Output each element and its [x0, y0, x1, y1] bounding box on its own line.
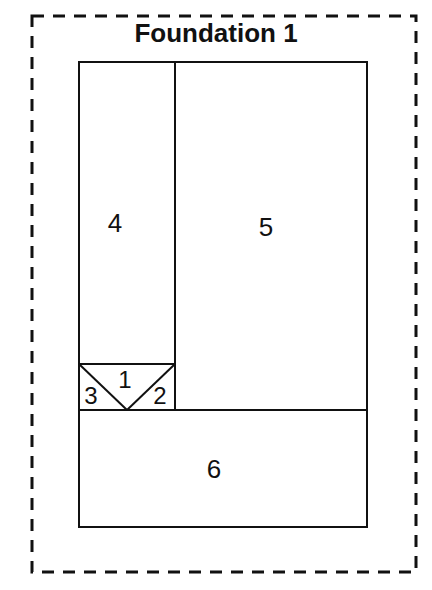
piece-label-6: 6	[207, 454, 221, 485]
piece-label-3: 3	[84, 382, 97, 410]
piece-label-1: 1	[118, 366, 131, 394]
seam-allowance-border	[32, 16, 416, 572]
piece-label-4: 4	[108, 208, 122, 239]
triangle-edge-right	[127, 364, 175, 410]
foundation-diagram	[0, 0, 432, 590]
piece-label-2: 2	[153, 382, 166, 410]
diagram-title: Foundation 1	[0, 18, 432, 49]
foundation-outline	[79, 62, 367, 527]
piece-label-5: 5	[259, 212, 273, 243]
